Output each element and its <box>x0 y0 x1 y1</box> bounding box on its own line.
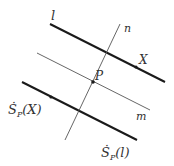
label-sp-l-main: Ṡ <box>101 144 110 160</box>
label-n: n <box>124 22 131 35</box>
label-sp-X: ṠP(X) <box>8 101 42 119</box>
label-sp-l-arg: (l) <box>115 145 129 160</box>
label-sp-l: ṠP(l) <box>101 144 130 162</box>
label-sp-X-arg: (X) <box>22 102 41 117</box>
label-m: m <box>136 110 146 123</box>
line-l <box>50 24 165 82</box>
label-l: l <box>51 8 55 23</box>
label-P: P <box>94 69 104 83</box>
label-sp-X-main: Ṡ <box>8 101 17 117</box>
label-X: X <box>138 53 148 67</box>
point-X <box>134 65 137 68</box>
reflection-diagram: l n X P m ṠP(X) ṠP(l) <box>0 0 174 166</box>
diagram-svg: l n X P m ṠP(X) ṠP(l) <box>0 0 174 166</box>
point-sp-X <box>49 95 52 98</box>
